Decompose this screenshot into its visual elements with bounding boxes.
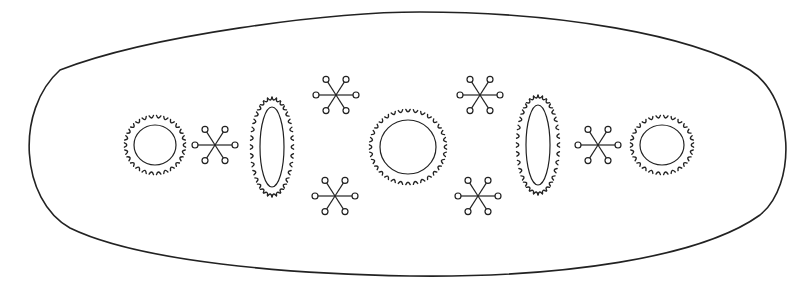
tooth-mark (678, 167, 682, 170)
tooth-mark (250, 145, 252, 149)
left-star-icon (192, 126, 238, 163)
tooth-mark (656, 115, 660, 118)
tooth-mark (443, 152, 446, 156)
star-node (222, 158, 228, 164)
tooth-mark (690, 150, 693, 154)
tooth-mark (124, 143, 126, 147)
tooth-mark (251, 154, 254, 158)
tooth-mark (438, 166, 441, 170)
tooth-mark (291, 136, 294, 140)
tooth-mark (370, 152, 373, 156)
object-drawing (0, 0, 812, 291)
star-node (455, 193, 461, 199)
center-circle (369, 109, 446, 184)
tooth-mark (530, 190, 534, 193)
tooth-mark (552, 176, 555, 180)
tooth-mark (288, 119, 291, 123)
tooth-mark (385, 176, 389, 179)
tooth-mark (268, 194, 272, 197)
star-node (342, 209, 348, 215)
tooth-mark (444, 145, 446, 149)
star-node (323, 108, 329, 114)
tooth-mark (280, 189, 284, 193)
tooth-mark (136, 167, 140, 170)
tooth-mark (288, 171, 291, 175)
tooth-mark (642, 167, 646, 170)
star-node (343, 108, 349, 114)
tooth-mark (183, 143, 185, 147)
right-oval-inner-ring (526, 105, 550, 185)
star-node (343, 76, 349, 82)
tooth-mark (180, 157, 183, 161)
tooth-mark (433, 119, 437, 123)
tooth-mark (542, 190, 546, 193)
tooth-mark (443, 138, 446, 142)
tooth-mark (523, 104, 526, 108)
tooth-mark (398, 110, 402, 113)
tooth-mark (664, 115, 668, 118)
tooth-mark (253, 119, 256, 123)
tooth-mark (182, 136, 185, 140)
tooth-mark (264, 98, 268, 101)
tooth-mark (642, 119, 646, 122)
right-circle-inner-ring (640, 125, 684, 165)
tooth-mark (371, 159, 374, 163)
tooth-mark (438, 124, 441, 128)
tooth-mark (691, 143, 693, 147)
tooth-mark (176, 124, 180, 128)
tooth-mark (556, 160, 559, 164)
tooth-mark (517, 152, 520, 156)
tooth-mark (253, 171, 256, 175)
tooth-mark (517, 125, 520, 129)
tooth-mark (260, 101, 264, 105)
tooth-mark (554, 117, 557, 121)
tooth-mark (142, 170, 146, 173)
tooth-mark (280, 101, 284, 105)
tooth-mark (370, 138, 373, 142)
tooth-mark (268, 97, 272, 100)
tooth-mark (684, 163, 688, 167)
tooth-mark (272, 97, 276, 100)
center-circle-inner-ring (380, 120, 436, 174)
tooth-mark (534, 95, 538, 98)
tooth-mark (633, 129, 636, 133)
tooth-mark (375, 166, 378, 170)
tooth-mark (257, 184, 260, 188)
tooth-mark (441, 159, 444, 163)
tooth-mark (534, 192, 538, 195)
star-node (465, 209, 471, 215)
tooth-mark (542, 96, 546, 99)
drawing-stage (0, 0, 812, 291)
tooth-mark (637, 124, 641, 128)
star-node (585, 158, 591, 164)
tooth-mark (557, 143, 559, 147)
tooth-mark (631, 136, 634, 140)
tooth-mark (391, 111, 395, 114)
tooth-mark (170, 167, 174, 170)
center-circle-teeth (369, 109, 446, 184)
tooth-mark (283, 184, 286, 188)
star-node (585, 126, 591, 132)
left-oval-inner-ring (260, 107, 284, 187)
star-node (312, 193, 318, 199)
right-oval (516, 95, 559, 195)
tooth-mark (251, 162, 254, 166)
star-node (485, 209, 491, 215)
tooth-mark (255, 112, 258, 116)
star-node (202, 158, 208, 164)
star-node (232, 142, 238, 148)
tooth-mark (557, 152, 560, 156)
left-circle-inner-ring (134, 125, 176, 165)
star-node (487, 108, 493, 114)
tooth-mark (142, 117, 146, 120)
tooth-mark (526, 99, 530, 103)
tooth-mark (549, 182, 552, 186)
tooth-mark (633, 157, 636, 161)
tooth-mark (413, 110, 417, 113)
star-node (352, 193, 358, 199)
tooth-mark (371, 131, 374, 135)
star-node (497, 92, 503, 98)
tooth-mark (433, 172, 437, 176)
bottom-right-star-icon (455, 177, 501, 214)
tooth-mark (125, 150, 128, 154)
